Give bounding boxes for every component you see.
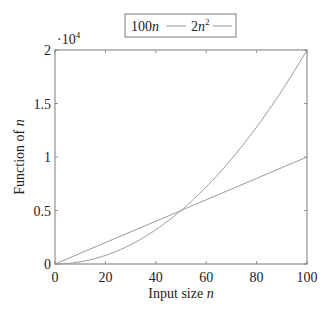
x-tick-label: 60 — [199, 270, 213, 285]
y-axis-label: Function of n — [12, 119, 27, 194]
x-tick-label: 80 — [250, 270, 264, 285]
series-line-2n2 — [55, 50, 307, 264]
series-group — [55, 50, 307, 264]
legend-label-100n: 100n — [131, 19, 159, 34]
y-tick-label: 1 — [44, 150, 51, 165]
y-axis-ticks: 00.511.52 — [34, 43, 308, 272]
legend: 100n 2n2 — [125, 14, 236, 37]
line-chart: 100n 2n2 ·104 020406080100 00.511.52 Inp… — [0, 0, 328, 316]
x-tick-label: 40 — [149, 270, 163, 285]
y-tick-label: 2 — [44, 43, 51, 58]
x-tick-label: 100 — [297, 270, 318, 285]
plot-frame — [55, 50, 307, 264]
x-tick-label: 20 — [98, 270, 112, 285]
x-axis-ticks: 020406080100 — [52, 50, 318, 285]
y-tick-label: 1.5 — [34, 97, 52, 112]
y-tick-label: 0.5 — [34, 204, 52, 219]
y-tick-label: 0 — [44, 257, 51, 272]
y-scale-note: ·104 — [57, 30, 81, 47]
x-tick-label: 0 — [52, 270, 59, 285]
x-axis-label: Input size n — [148, 286, 213, 301]
